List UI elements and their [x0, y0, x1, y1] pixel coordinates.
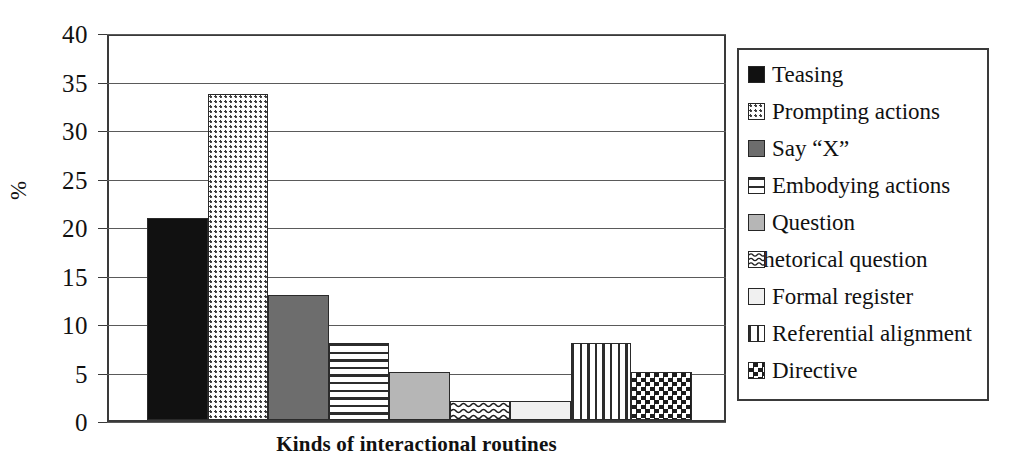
y-tick-label: 10: [62, 313, 88, 338]
gridline: [107, 34, 726, 35]
gridline: [107, 422, 726, 423]
bar-embodying-actions: [329, 343, 390, 420]
y-axis-tick: [98, 374, 107, 375]
y-axis-tick-labels: 4035302520151050: [0, 34, 88, 422]
bar-directive: [631, 372, 692, 420]
bar-series: [109, 36, 724, 420]
bar-say-x: [268, 295, 329, 420]
legend-swatch-light-gray-icon: [748, 214, 765, 231]
legend-label: Say “X”: [772, 137, 849, 160]
bar-formal-register: [510, 401, 571, 420]
y-axis-tick: [98, 180, 107, 181]
chart-figure: % 4035302520151050 Kinds of interactiona…: [0, 0, 1026, 472]
bar-question: [389, 372, 450, 420]
legend-swatch-solid-black-icon: [748, 66, 765, 83]
legend-swatch-wavy-icon: [748, 251, 765, 268]
legend-item-directive: Directive: [748, 352, 987, 389]
y-tick-label: 35: [62, 70, 88, 95]
legend-item-rhetorical-question: Rhetorical question: [748, 241, 987, 278]
legend-swatch-horizontal-lines-icon: [748, 177, 765, 194]
legend-item-formal-register: Formal register: [748, 278, 987, 315]
y-axis-tick: [98, 277, 107, 278]
legend-item-referential-alignment: Referential alignment: [748, 315, 987, 352]
legend-item-embodying-actions: Embodying actions: [748, 167, 987, 204]
y-tick-label: 0: [75, 410, 88, 435]
y-tick-label: 30: [62, 119, 88, 144]
plot-area: [107, 34, 726, 422]
y-axis-tick: [98, 83, 107, 84]
legend-label: Embodying actions: [772, 174, 950, 197]
legend-item-teasing: Teasing: [748, 56, 987, 93]
legend-swatch-dark-gray-icon: [748, 140, 765, 157]
legend-item-say-x: Say “X”: [748, 130, 987, 167]
legend-label: Referential alignment: [772, 322, 972, 345]
legend-swatch-checkerboard-icon: [748, 362, 765, 379]
legend-label: Directive: [772, 359, 858, 382]
legend-label: Prompting actions: [772, 100, 940, 123]
y-axis-tick: [98, 228, 107, 229]
bar-rhetorical-question: [450, 401, 511, 420]
y-tick-label: 40: [62, 22, 88, 47]
y-tick-label: 25: [62, 167, 88, 192]
y-tick-label: 5: [75, 361, 88, 386]
y-axis-tick: [98, 325, 107, 326]
y-tick-label: 20: [62, 216, 88, 241]
legend-swatch-dotted-icon: [748, 103, 765, 120]
legend-label: Formal register: [772, 285, 913, 308]
bar-prompting-actions: [208, 94, 269, 420]
bar-teasing: [147, 218, 208, 420]
bar-referential-alignment: [571, 343, 632, 420]
legend-item-prompting-actions: Prompting actions: [748, 93, 987, 130]
legend-swatch-white-icon: [748, 288, 765, 305]
y-axis-tick: [98, 34, 107, 35]
y-tick-label: 15: [62, 264, 88, 289]
legend-label: Question: [772, 211, 855, 234]
y-axis-tick: [98, 131, 107, 132]
legend-label: Rhetorical question: [748, 248, 928, 271]
legend-label: Teasing: [772, 63, 843, 86]
wavy-pattern-icon: [451, 402, 510, 419]
x-axis-title: Kinds of interactional routines: [107, 432, 726, 457]
legend-swatch-vertical-lines-icon: [748, 325, 765, 342]
legend-item-question: Question: [748, 204, 987, 241]
y-axis-tick: [98, 422, 107, 423]
legend: TeasingPrompting actionsSay “X”Embodying…: [737, 48, 989, 401]
